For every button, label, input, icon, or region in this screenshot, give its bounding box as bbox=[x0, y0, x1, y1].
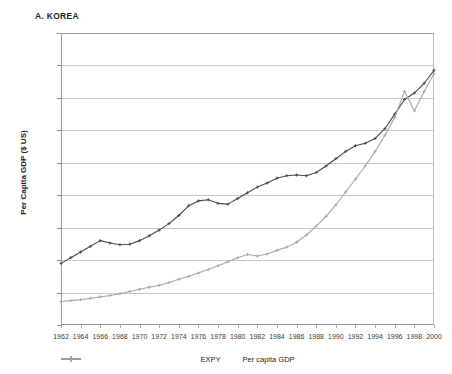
x-tick-mark bbox=[434, 325, 435, 328]
x-tick-mark bbox=[120, 325, 121, 328]
data-point-marker bbox=[138, 288, 141, 291]
x-tick-mark bbox=[277, 325, 278, 328]
plot-area: 02,0004,0006,0008,00010,00012,00014,0001… bbox=[61, 33, 434, 325]
x-tick-label: 1966 bbox=[92, 333, 108, 340]
y-tick-mark bbox=[57, 228, 61, 229]
y-tick-mark bbox=[57, 98, 61, 99]
x-tick-label: 1998 bbox=[407, 333, 423, 340]
legend-item: EXPY bbox=[200, 355, 220, 364]
x-tick-mark bbox=[316, 325, 317, 328]
data-point-marker bbox=[108, 241, 111, 244]
data-point-marker bbox=[207, 198, 210, 201]
data-point-marker bbox=[177, 278, 180, 281]
x-tick-mark bbox=[61, 325, 62, 328]
data-point-marker bbox=[266, 252, 269, 255]
x-tick-label: 1992 bbox=[348, 333, 364, 340]
y-tick-mark bbox=[57, 130, 61, 131]
y-tick-mark bbox=[57, 293, 61, 294]
x-tick-label: 1990 bbox=[328, 333, 344, 340]
x-tick-label: 1978 bbox=[210, 333, 226, 340]
x-tick-label: 1984 bbox=[269, 333, 285, 340]
page-title: A. KOREA bbox=[35, 11, 79, 21]
data-point-marker bbox=[216, 264, 219, 267]
data-point-marker bbox=[108, 294, 111, 297]
x-tick-mark bbox=[218, 325, 219, 328]
data-point-marker bbox=[295, 173, 298, 176]
x-tick-mark bbox=[179, 325, 180, 328]
series-line bbox=[61, 70, 434, 263]
data-point-marker bbox=[69, 299, 72, 302]
data-point-marker bbox=[59, 300, 62, 303]
data-point-marker bbox=[99, 295, 102, 298]
x-tick-mark bbox=[81, 325, 82, 328]
x-tick-mark bbox=[198, 325, 199, 328]
series-line bbox=[61, 74, 434, 302]
x-tick-label: 1972 bbox=[151, 333, 167, 340]
data-point-marker bbox=[128, 243, 131, 246]
x-tick-label: 1994 bbox=[367, 333, 383, 340]
x-tick-mark bbox=[336, 325, 337, 328]
chart-root: A. KOREA Per Capita GDP ($ US) 02,0004,0… bbox=[0, 0, 452, 374]
x-tick-mark bbox=[355, 325, 356, 328]
data-point-marker bbox=[207, 268, 210, 271]
data-point-marker bbox=[216, 202, 219, 205]
x-tick-mark bbox=[414, 325, 415, 328]
x-tick-label: 1976 bbox=[191, 333, 207, 340]
series-layer bbox=[61, 33, 434, 325]
x-tick-mark bbox=[238, 325, 239, 328]
y-tick-mark bbox=[57, 195, 61, 196]
y-tick-mark bbox=[57, 260, 61, 261]
data-point-marker bbox=[187, 275, 190, 278]
y-tick-mark bbox=[57, 33, 61, 34]
x-tick-label: 2000 bbox=[426, 333, 442, 340]
series-expy bbox=[59, 69, 435, 265]
legend-swatch-icon bbox=[61, 355, 81, 363]
x-tick-label: 1996 bbox=[387, 333, 403, 340]
x-tick-label: 1982 bbox=[250, 333, 266, 340]
x-tick-label: 1968 bbox=[112, 333, 128, 340]
x-tick-label: 1986 bbox=[289, 333, 305, 340]
x-tick-mark bbox=[140, 325, 141, 328]
data-point-marker bbox=[246, 253, 249, 256]
legend-label: Per capita GDP bbox=[242, 355, 294, 364]
x-tick-mark bbox=[100, 325, 101, 328]
x-tick-label: 1962 bbox=[53, 333, 69, 340]
x-tick-mark bbox=[297, 325, 298, 328]
x-tick-mark bbox=[257, 325, 258, 328]
data-point-marker bbox=[118, 292, 121, 295]
data-point-marker bbox=[275, 249, 278, 252]
data-point-marker bbox=[79, 298, 82, 301]
x-tick-label: 1974 bbox=[171, 333, 187, 340]
legend-item: Per capita GDP bbox=[242, 355, 294, 364]
x-tick-mark bbox=[395, 325, 396, 328]
x-tick-label: 1964 bbox=[73, 333, 89, 340]
y-axis-title: Per Capita GDP ($ US) bbox=[19, 98, 28, 248]
data-point-marker bbox=[236, 256, 239, 259]
data-point-marker bbox=[128, 290, 131, 293]
x-tick-label: 1970 bbox=[132, 333, 148, 340]
data-point-marker bbox=[148, 286, 151, 289]
x-tick-mark bbox=[159, 325, 160, 328]
y-tick-mark bbox=[57, 163, 61, 164]
data-point-marker bbox=[197, 271, 200, 274]
data-point-marker bbox=[226, 260, 229, 263]
legend-label: EXPY bbox=[200, 355, 220, 364]
y-tick-mark bbox=[57, 65, 61, 66]
data-point-marker bbox=[89, 297, 92, 300]
series-per-capita-gdp bbox=[59, 72, 435, 303]
data-point-marker bbox=[167, 281, 170, 284]
data-point-marker bbox=[285, 174, 288, 177]
x-tick-mark bbox=[375, 325, 376, 328]
x-tick-label: 1980 bbox=[230, 333, 246, 340]
x-tick-label: 1988 bbox=[308, 333, 324, 340]
data-point-marker bbox=[256, 254, 259, 257]
data-point-marker bbox=[305, 174, 308, 177]
legend: EXPYPer capita GDP bbox=[61, 355, 434, 364]
data-point-marker bbox=[158, 284, 161, 287]
data-point-marker bbox=[118, 243, 121, 246]
